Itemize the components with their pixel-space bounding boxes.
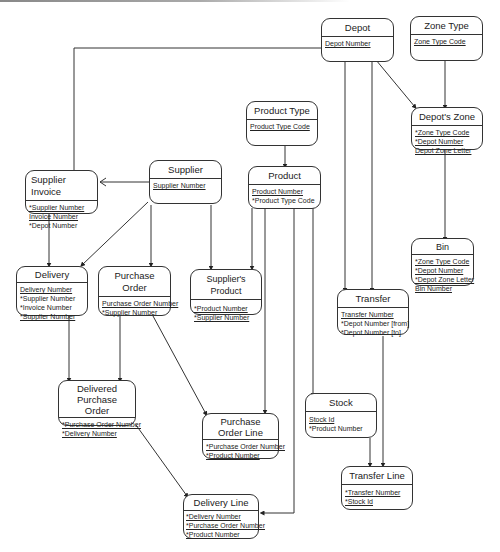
attribute: Invoice Number [29,212,94,221]
attribute: *Product Number [206,451,275,460]
attribute: *Depot Number [415,266,470,275]
attribute: *Product Type Code [252,196,317,205]
attribute: *Depot Number [to] [341,328,405,337]
entity-title: Zone Type [411,17,482,35]
attribute: Depot Zone Letter [415,146,479,155]
attribute: *Supplier Number [102,308,167,317]
attribute: *Zone Type Code [415,257,470,266]
attribute: *Depot Number [415,137,479,146]
entity-title: Supplier's Product [191,270,261,300]
entity-supplier[interactable]: Supplier Supplier Number [149,160,222,204]
attribute: Supplier Number [153,181,218,190]
entity-title: Delivery [17,267,87,283]
entity-title: Transfer [338,290,408,308]
entity-title: Delivered Purchase Order [59,381,135,418]
entity-depots-zone[interactable]: Depot's Zone *Zone Type Code *Depot Numb… [411,107,483,150]
attribute: *Zone Type Code [415,128,479,137]
attribute: *Supplier Number [29,203,94,212]
attribute: Stock Id [309,415,373,424]
entity-purchase-order[interactable]: Purchase Order Purchase Order Number *Su… [98,266,171,316]
entity-zone-type[interactable]: Zone Type Zone Type Code [410,16,483,61]
entity-title: Stock [306,394,376,412]
attribute: Transfer Number [341,310,405,319]
attribute: Zone Type Code [414,37,479,46]
entity-supplier-invoice[interactable]: Supplier Invoice *Supplier Number Invoic… [25,170,98,214]
attribute: Delivery Number [20,285,84,294]
entity-purchase-order-line[interactable]: Purchase Order Line *Purchase Order Numb… [202,413,279,459]
entity-title: Bin [412,239,473,255]
attribute: *Product Number [309,424,373,433]
entity-transfer-line[interactable]: Transfer Line *Transfer Number *Stock Id [341,466,413,510]
attribute: *Transfer Number [345,488,409,497]
entity-title: Supplier [150,161,221,179]
entity-title: Product [249,167,320,185]
entity-stock[interactable]: Stock Stock Id *Product Number [305,393,377,438]
entity-delivery[interactable]: Delivery Delivery Number *Supplier Numbe… [16,266,88,316]
attribute: *Depot Number [29,221,94,230]
attribute: Product Type Code [250,122,314,131]
attribute: *Product Number [186,530,256,539]
entity-title: Purchase Order Line [203,414,278,440]
entity-title: Purchase Order [99,267,170,297]
entity-title: Transfer Line [342,467,412,485]
attribute: *Supplier Number [20,312,84,321]
entity-suppliers-product[interactable]: Supplier's Product *Product Number *Supp… [190,269,262,315]
attribute: *Purchase Order Number [206,442,275,451]
attribute: *Delivery Number [186,512,256,521]
entity-title: Depot's Zone [412,108,482,126]
entity-delivery-line[interactable]: Delivery Line *Delivery Number *Purchase… [183,494,259,539]
attribute: Purchase Order Number [102,299,167,308]
attribute: *Depot Zone Letter [415,275,470,284]
entity-title: Supplier Invoice [26,171,97,201]
entity-delivered-purchase-order[interactable]: Delivered Purchase Order *Purchase Order… [58,380,136,426]
attribute: *Invoice Number [20,303,84,312]
entity-title: Depot [322,19,393,37]
entity-title: Delivery Line [184,495,258,511]
attribute: Depot Number [325,39,390,48]
attribute: *Supplier Number [20,294,84,303]
entity-product-type[interactable]: Product Type Product Type Code [246,101,318,146]
attribute: *Supplier Number [194,313,258,322]
attribute: Bin Number [415,284,470,293]
entity-product[interactable]: Product Product Number *Product Type Cod… [248,166,321,209]
attribute: *Depot Number [from] [341,319,405,328]
attribute: *Stock Id [345,497,409,506]
entity-title: Product Type [247,102,317,120]
attribute: *Purchase Order Number [62,420,132,429]
entity-bin[interactable]: Bin *Zone Type Code *Depot Number *Depot… [411,238,474,286]
attribute: *Delivery Number [62,429,132,438]
attribute: Product Number [252,187,317,196]
attribute: *Product Number [194,304,258,313]
attribute: *Purchase Order Number [186,521,256,530]
entity-depot[interactable]: Depot Depot Number [321,18,394,62]
entity-transfer[interactable]: Transfer Transfer Number *Depot Number [… [337,289,409,335]
